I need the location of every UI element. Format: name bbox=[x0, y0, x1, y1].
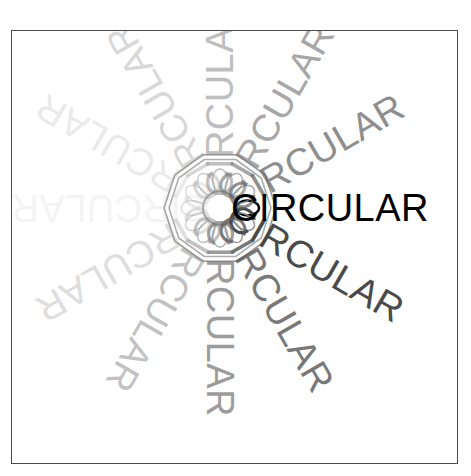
radial-word-label: CIRCULAR bbox=[231, 189, 429, 227]
radial-text-burst: CIRCULARCIRCULARCIRCULARCIRCULARCIRCULAR… bbox=[12, 31, 457, 463]
artwork-canvas: CIRCULARCIRCULARCIRCULARCIRCULARCIRCULAR… bbox=[0, 0, 471, 476]
artwork-frame: CIRCULARCIRCULARCIRCULARCIRCULARCIRCULAR… bbox=[11, 30, 458, 464]
